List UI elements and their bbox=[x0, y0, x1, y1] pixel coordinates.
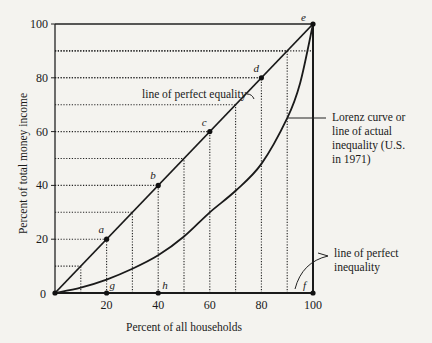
lorenz-chart: abcdefgh 02040608010020406080100Percent … bbox=[0, 0, 432, 343]
y-tick-label: 20 bbox=[36, 232, 48, 246]
x-tick-label: 100 bbox=[304, 298, 322, 312]
lorenz-annotation-line: line of actual bbox=[332, 125, 392, 137]
point-b bbox=[156, 183, 161, 188]
point-label-a: a bbox=[99, 223, 105, 235]
lorenz-annotation-line: Lorenz curve or bbox=[332, 111, 406, 123]
point-g bbox=[104, 290, 109, 295]
inequality-annotation-arrow bbox=[295, 253, 328, 289]
point-h bbox=[156, 290, 161, 295]
lorenz-annotation-line: in 1971) bbox=[332, 153, 371, 166]
x-tick-label: 40 bbox=[152, 298, 164, 312]
x-axis-label: Percent of all households bbox=[126, 321, 242, 333]
point-f bbox=[310, 290, 315, 295]
point-label-h: h bbox=[162, 279, 168, 291]
annotations: line of perfect equalityLorenz curve orl… bbox=[142, 88, 406, 289]
point-label-b: b bbox=[150, 169, 156, 181]
lorenz-annotation-line: inequality (U.S. bbox=[332, 139, 405, 152]
point-label-g: g bbox=[110, 279, 116, 291]
x-tick-label: 80 bbox=[255, 298, 267, 312]
x-tick-label: 20 bbox=[101, 298, 113, 312]
inequality-annotation-line: line of perfect bbox=[334, 247, 399, 260]
equality-annotation-arrow bbox=[247, 94, 254, 99]
point-label-f: f bbox=[303, 279, 308, 291]
y-tick-label: 80 bbox=[36, 71, 48, 85]
point-d bbox=[259, 75, 264, 80]
point-label-d: d bbox=[253, 62, 259, 74]
point-label-e: e bbox=[301, 11, 306, 23]
inequality-annotation-line: inequality bbox=[334, 261, 380, 274]
x-tick-label: 60 bbox=[204, 298, 216, 312]
point-label-c: c bbox=[202, 116, 207, 128]
point-origin bbox=[52, 290, 57, 295]
equality-annotation: line of perfect equality bbox=[142, 88, 247, 101]
origin-label: 0 bbox=[40, 287, 46, 301]
point-e bbox=[310, 21, 315, 26]
y-tick-label: 40 bbox=[36, 178, 48, 192]
y-axis-label: Percent of total money income bbox=[17, 93, 30, 234]
y-tick-label: 100 bbox=[30, 17, 48, 31]
point-c bbox=[207, 129, 212, 134]
point-a bbox=[104, 237, 109, 242]
y-tick-label: 60 bbox=[36, 125, 48, 139]
